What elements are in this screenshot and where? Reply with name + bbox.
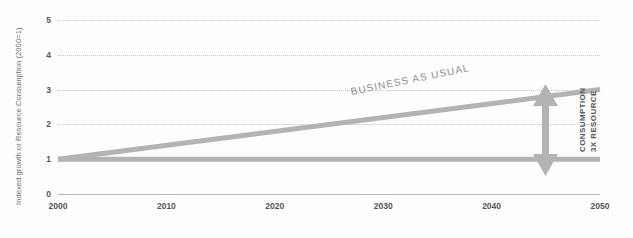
x-tick-2030: 2030: [374, 201, 393, 211]
y-tick-1: 1: [46, 154, 51, 164]
chart-container: Indexed growth or Resource Consumption (…: [0, 0, 633, 238]
y-axis-label: Indexed growth or Resource Consumption (…: [14, 5, 28, 205]
x-tick-2000: 2000: [49, 201, 68, 211]
plot-area: 5 4 3 2 1 0 2000 2010 2020 2030 2040 205…: [58, 20, 600, 194]
y-tick-3: 3: [46, 85, 51, 95]
resource-consumption-annotation: 3X RESOURCE CONSUMPTION: [578, 62, 599, 152]
x-tick-2010: 2010: [157, 201, 176, 211]
x-tick-2020: 2020: [265, 201, 284, 211]
x-tick-2050: 2050: [591, 201, 610, 211]
resource-consumption-line-1: 3X RESOURCE: [589, 62, 599, 152]
y-tick-0: 0: [46, 189, 51, 199]
gridline-0: [58, 194, 600, 195]
resource-consumption-line-2: CONSUMPTION: [578, 62, 588, 152]
y-tick-2: 2: [46, 119, 51, 129]
gap-arrow-icon: [533, 84, 558, 176]
x-tick-2040: 2040: [482, 201, 501, 211]
gap-arrow-layer: [58, 20, 600, 194]
y-tick-4: 4: [46, 50, 51, 60]
y-tick-5: 5: [46, 15, 51, 25]
